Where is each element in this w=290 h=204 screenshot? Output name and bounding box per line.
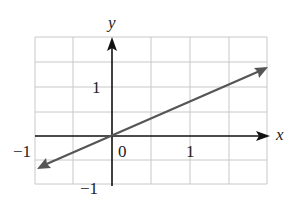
y-tick-neg-1: −1 <box>80 180 98 197</box>
axes <box>35 44 262 186</box>
y-tick-1: 1 <box>92 79 101 96</box>
origin-label: 0 <box>118 143 127 160</box>
x-tick-neg-1: −1 <box>13 143 31 160</box>
grid <box>35 37 267 184</box>
y-axis-label: y <box>108 14 116 31</box>
x-axis-label: x <box>276 126 284 143</box>
coordinate-plane <box>0 0 290 204</box>
x-tick-1: 1 <box>186 143 195 160</box>
